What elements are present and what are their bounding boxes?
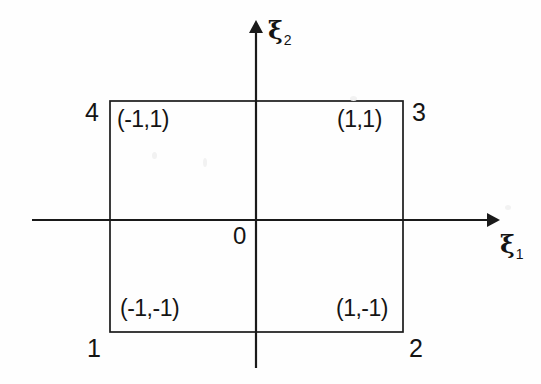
reference-square-figure: ξ2 ξ1 0 4 (-1,1) 3 (1,1) 1 (-1,-1) 2 (1,… [0,0,541,384]
figure-canvas [0,0,541,384]
node-coord-3: (1,1) [337,108,382,131]
xi-1-axis-label: ξ1 [500,232,524,261]
xi-1-axis-arrowhead [487,213,500,227]
xi-1-axis [32,213,500,227]
node-coord-1: (-1,-1) [120,297,179,320]
xi-2-axis [249,20,263,368]
xi-2-axis-label-subscript: 2 [284,32,292,48]
xi-2-axis-label-symbol: ξ [268,16,283,45]
node-number-1: 1 [87,336,101,361]
origin-label: 0 [233,224,246,248]
node-number-2: 2 [409,336,423,361]
xi-1-axis-label-symbol: ξ [500,230,515,259]
xi-1-axis-label-subscript: 1 [516,246,524,262]
node-coord-2: (1,-1) [336,297,388,320]
xi-2-axis-arrowhead [249,20,263,33]
node-number-4: 4 [85,100,99,125]
node-number-3: 3 [412,100,426,125]
xi-2-axis-label: ξ2 [268,18,292,47]
node-coord-4: (-1,1) [117,108,169,131]
